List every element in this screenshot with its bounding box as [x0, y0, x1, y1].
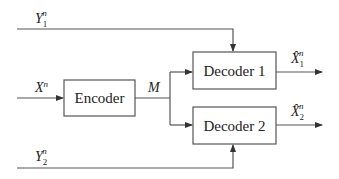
- svg-text:X̂2n: X̂2n: [290, 101, 304, 122]
- svg-text:Y1n: Y1n: [35, 8, 47, 29]
- y1-side-info-path: [17, 29, 233, 51]
- xhat1-label: X̂1n: [290, 48, 304, 69]
- svg-text:M: M: [147, 80, 161, 95]
- y1-label: Y1n: [35, 8, 47, 29]
- y2-label: Y2n: [35, 146, 47, 167]
- m-label: M: [147, 80, 161, 95]
- xhat2-label: X̂2n: [290, 101, 304, 122]
- decoder1-label: Decoder 1: [203, 63, 265, 79]
- decoder2-label: Decoder 2: [203, 118, 265, 134]
- m-message-path: [135, 72, 192, 125]
- svg-text:Xn: Xn: [34, 79, 49, 95]
- encoder-label: Encoder: [75, 90, 125, 106]
- diagram-canvas: Encoder Decoder 1 Decoder 2 Y1n Xn M Y2n…: [0, 0, 339, 179]
- svg-text:Y2n: Y2n: [35, 146, 47, 167]
- svg-text:X̂1n: X̂1n: [290, 48, 304, 69]
- x-label: Xn: [34, 79, 49, 95]
- y2-side-info-path: [17, 145, 233, 168]
